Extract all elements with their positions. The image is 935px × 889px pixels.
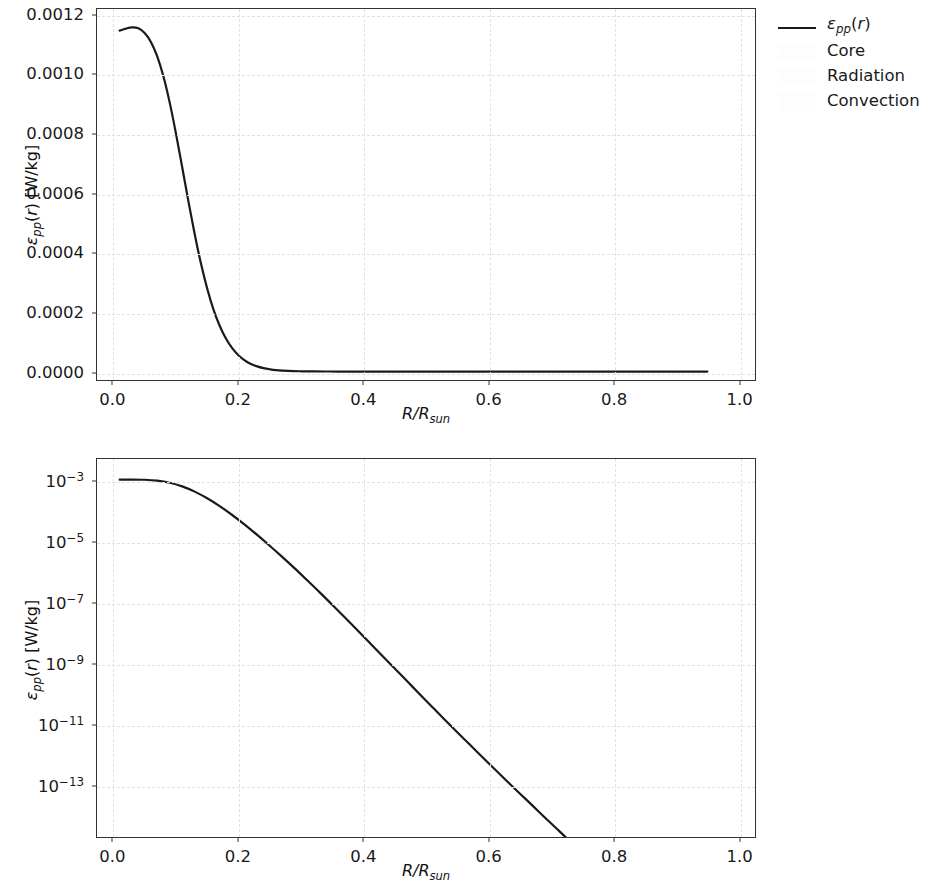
log-plot-area <box>96 458 756 838</box>
x-tick-mark <box>739 381 740 385</box>
legend-patch-swatch <box>778 68 816 86</box>
gridline-horizontal <box>97 254 755 255</box>
x-tick-label: 0.4 <box>350 392 376 409</box>
legend-line-swatch <box>778 18 816 36</box>
y-tick-mark <box>92 602 96 603</box>
x-tick-mark <box>112 838 113 842</box>
x-tick-label: 0.6 <box>476 392 502 409</box>
gridline-vertical <box>239 459 240 837</box>
y-tick-label: 10−3 <box>0 471 84 490</box>
x-tick-label: 0.4 <box>350 849 376 866</box>
log-xaxis-label: R/Rsun <box>402 861 450 883</box>
y-tick-label: 10−11 <box>0 716 84 735</box>
y-tick-mark <box>92 74 96 75</box>
legend: εpp(r)CoreRadiationConvection <box>778 14 933 114</box>
data-curve <box>120 480 708 837</box>
legend-item: εpp(r) <box>778 14 933 39</box>
y-tick-label: 0.0012 <box>0 7 84 24</box>
x-tick-mark <box>488 838 489 842</box>
legend-item-label: Core <box>827 43 865 60</box>
gridline-vertical <box>615 9 616 380</box>
gridline-vertical <box>741 9 742 380</box>
x-tick-mark <box>363 381 364 385</box>
x-tick-mark <box>614 381 615 385</box>
y-tick-label: 0.0000 <box>0 364 84 381</box>
legend-item-label: Radiation <box>827 68 905 85</box>
legend-patch-swatch <box>778 43 816 61</box>
x-tick-label: 0.8 <box>601 392 627 409</box>
linear-plot-area <box>96 8 756 381</box>
log-yaxis-label: εpp(r) [W/kg] <box>22 600 44 701</box>
y-tick-mark <box>92 480 96 481</box>
log-panel: 10−310−510−710−910−1110−130.00.20.40.60.… <box>0 450 770 889</box>
x-tick-label: 1.0 <box>726 849 752 866</box>
y-tick-mark <box>92 193 96 194</box>
gridline-vertical <box>364 459 365 837</box>
legend-item: Radiation <box>778 64 933 89</box>
y-tick-label: 0.0008 <box>0 126 84 143</box>
legend-item-label: εpp(r) <box>827 16 871 36</box>
gridline-horizontal <box>97 195 755 196</box>
gridline-vertical <box>364 9 365 380</box>
y-tick-mark <box>92 253 96 254</box>
gridline-horizontal <box>97 665 755 666</box>
figure-root: 0.00000.00020.00040.00060.00080.00100.00… <box>0 0 935 889</box>
gridline-vertical <box>113 9 114 380</box>
data-curve <box>120 27 708 371</box>
x-tick-label: 0.2 <box>225 849 251 866</box>
y-tick-mark <box>92 14 96 15</box>
x-tick-mark <box>363 838 364 842</box>
gridline-vertical <box>239 9 240 380</box>
gridline-vertical <box>490 459 491 837</box>
x-tick-mark <box>112 381 113 385</box>
legend-item-label: Convection <box>827 93 920 110</box>
gridline-horizontal <box>97 135 755 136</box>
gridline-horizontal <box>97 314 755 315</box>
y-tick-label: 10−5 <box>0 532 84 551</box>
linear-yaxis-label: εpp(r) [W/kg] <box>22 145 44 246</box>
y-tick-mark <box>92 541 96 542</box>
x-tick-mark <box>237 381 238 385</box>
gridline-vertical <box>490 9 491 380</box>
x-tick-mark <box>237 838 238 842</box>
y-tick-mark <box>92 134 96 135</box>
y-tick-mark <box>92 725 96 726</box>
gridline-horizontal <box>97 726 755 727</box>
x-tick-label: 0.0 <box>99 849 125 866</box>
x-tick-mark <box>488 381 489 385</box>
gridline-horizontal <box>97 75 755 76</box>
legend-item: Core <box>778 39 933 64</box>
y-tick-mark <box>92 372 96 373</box>
y-tick-label: 0.0002 <box>0 305 84 322</box>
y-tick-label: 0.0004 <box>0 245 84 262</box>
gridline-vertical <box>113 459 114 837</box>
y-tick-mark <box>92 786 96 787</box>
gridline-horizontal <box>97 374 755 375</box>
linear-xaxis-label: R/Rsun <box>402 404 450 426</box>
legend-item: Convection <box>778 89 933 114</box>
x-tick-mark <box>739 838 740 842</box>
y-tick-label: 10−13 <box>0 777 84 796</box>
linear-panel: 0.00000.00020.00040.00060.00080.00100.00… <box>0 0 770 430</box>
gridline-horizontal <box>97 787 755 788</box>
y-tick-mark <box>92 663 96 664</box>
x-tick-label: 0.0 <box>99 392 125 409</box>
gridline-horizontal <box>97 543 755 544</box>
gridline-vertical <box>741 459 742 837</box>
gridline-horizontal <box>97 16 755 17</box>
log-curve-svg <box>97 459 755 837</box>
x-tick-mark <box>614 838 615 842</box>
x-tick-label: 0.2 <box>225 392 251 409</box>
x-tick-label: 0.6 <box>476 849 502 866</box>
gridline-vertical <box>615 459 616 837</box>
y-tick-label: 0.0010 <box>0 66 84 83</box>
x-tick-label: 0.8 <box>601 849 627 866</box>
legend-patch-swatch <box>778 93 816 111</box>
gridline-horizontal <box>97 482 755 483</box>
gridline-horizontal <box>97 604 755 605</box>
x-tick-label: 1.0 <box>726 392 752 409</box>
y-tick-mark <box>92 312 96 313</box>
